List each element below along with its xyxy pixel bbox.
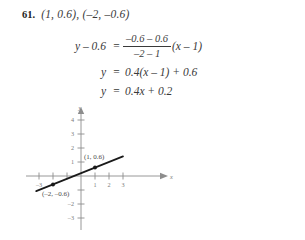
data-point-1 [93,166,97,170]
graph-svg: x y –3 1 2 3 4 3 2 1 –2 [18,104,178,238]
slope-fraction-denominator: –2 – 1 [131,48,163,59]
data-point-1-label: (1, 0.6) [84,153,105,161]
x-tick-label-3: 3 [121,181,124,188]
problem-header: 61. (1, 0.6), (–2, –0.6) [22,8,129,20]
coordinate-graph: x y –3 1 2 3 4 3 2 1 –2 [18,104,178,238]
y-tick-label-4: 4 [71,116,74,123]
y-tick-label-3: 3 [71,130,74,137]
fraction-bar [123,46,171,47]
equation-3-right-side: 0.4x + 0.2 [122,85,172,97]
y-tick-label-neg3: –3 [67,214,74,221]
equation-line-2: y = 0.4(x – 1) + 0.6 [60,62,260,81]
equation-line-1: y – 0.6 = –0.6 – 0.6 –2 – 1 (x – 1) [60,30,260,62]
equation-line-3: y = 0.4x + 0.2 [60,81,260,100]
equation-2-equals-sign: = [111,66,122,78]
y-tick-label-neg2: –2 [67,200,74,207]
solution-steps: y – 0.6 = –0.6 – 0.6 –2 – 1 (x – 1) y = … [60,30,260,100]
data-point-2 [51,182,55,186]
equation-3-equals-sign: = [111,85,122,97]
slope-fraction: –0.6 – 0.6 –2 – 1 [123,33,171,58]
equation-3-left-side: y [60,85,111,97]
equation-2-left-side: y [60,66,111,78]
problem-given-points: (1, 0.6), (–2, –0.6) [41,8,129,20]
problem-number: 61. [22,9,35,20]
y-tick-label-2: 2 [71,144,74,151]
equation-2-right-side: 0.4(x – 1) + 0.6 [122,66,197,78]
x-tick-label-1: 1 [93,181,96,188]
equation-1-factor: (x – 1) [172,40,202,52]
equation-1-left-side: y – 0.6 [60,40,111,52]
x-axis-label: x [169,173,173,180]
slope-fraction-numerator: –0.6 – 0.6 [123,33,171,44]
x-axis-arrow-icon [160,173,168,179]
y-axis-label: y [78,104,82,111]
data-point-2-label: (–2, –0.6) [42,190,70,198]
x-tick-label-2: 2 [107,181,110,188]
y-tick-label-1: 1 [71,158,74,165]
equation-1-equals-sign: = [111,40,122,52]
x-tick-label-neg3: –3 [35,181,42,188]
